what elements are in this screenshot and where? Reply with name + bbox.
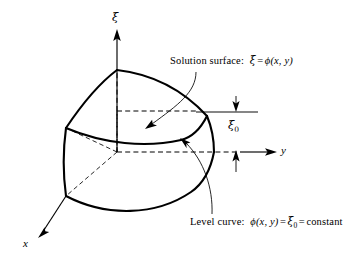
y-axis-label: y bbox=[281, 144, 286, 156]
skirt-edge-left bbox=[64, 128, 66, 196]
skirt-edge-right bbox=[207, 116, 214, 152]
solution-surface-leader bbox=[152, 72, 196, 124]
solution-surface-equals: = bbox=[256, 55, 265, 66]
solution-surface-lhs: ξ bbox=[250, 54, 256, 66]
solution-surface-annotation: Solution surface: ξ=ϕ(x, y) bbox=[170, 54, 293, 66]
figure-canvas: ξ y x ξ0 Solution surface: ξ=ϕ(x, y) Lev… bbox=[0, 0, 359, 258]
xi-axis-label: ξ bbox=[112, 10, 118, 24]
level-curve-leader bbox=[186, 143, 212, 214]
level-curve-base bbox=[66, 152, 214, 211]
surface-edge-left-upper bbox=[66, 70, 117, 128]
solution-surface-prefix: Solution surface: bbox=[170, 55, 244, 66]
x-axis-line bbox=[44, 196, 66, 230]
level-curve-annotation: Level curve: ϕ(x, y)=ξ0=constant bbox=[190, 215, 343, 230]
x-axis-label: x bbox=[23, 237, 28, 249]
surface-front-edge bbox=[66, 116, 207, 144]
level-curve-lhs: ϕ(x, y) bbox=[250, 216, 278, 227]
xi0-subscript: 0 bbox=[234, 125, 239, 134]
level-curve-prefix: Level curve: bbox=[190, 216, 245, 227]
x-axis-arrowhead bbox=[38, 227, 49, 238]
surface-edge-right-upper bbox=[117, 70, 207, 116]
dashed-ruling-lower-left bbox=[66, 152, 117, 196]
level-curve-rhs: constant bbox=[306, 216, 342, 227]
xi0-dimension-label: ξ0 bbox=[228, 118, 239, 134]
solution-surface-rhs: ϕ(x, y) bbox=[265, 55, 293, 66]
